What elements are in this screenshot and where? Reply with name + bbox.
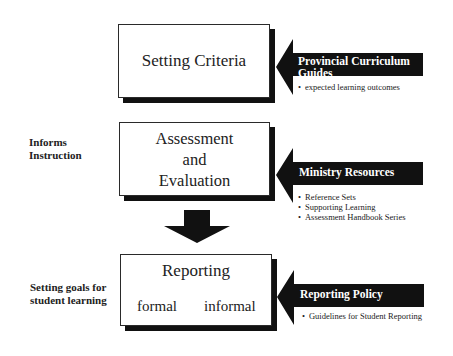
reporting-policy-bullets: Guidelines for Student Reporting: [302, 311, 422, 321]
input-label-reporting-policy: Reporting Policy: [300, 288, 383, 300]
bullet-item: Reference Sets: [298, 192, 406, 202]
title-line: Evaluation: [120, 170, 269, 191]
reporting-title: Reporting: [121, 261, 271, 281]
assessment-evaluation-title: Assessment and Evaluation: [120, 128, 269, 191]
reporting-formal: formal: [137, 298, 177, 315]
label-line: student learning: [30, 294, 107, 307]
bullet-item: expected learning outcomes: [298, 82, 400, 92]
down-arrow-icon: [164, 210, 231, 244]
label-line: Setting goals for: [30, 281, 107, 294]
setting-criteria-title: Setting Criteria: [119, 51, 269, 71]
label-line: Reporting Policy: [300, 288, 383, 300]
label-line: Ministry Resources: [299, 166, 394, 178]
setting-goals-label: Setting goals for student learning: [30, 281, 107, 307]
reporting-box: Reporting formal informal: [120, 254, 272, 326]
assessment-evaluation-box: Assessment and Evaluation: [119, 122, 270, 196]
ministry-resources-bullets: Reference Sets Supporting Learning Asses…: [298, 192, 406, 222]
label-line: Provincial Curriculum: [298, 55, 410, 67]
bullet-item: Assessment Handbook Series: [298, 212, 406, 222]
reporting-informal: informal: [204, 298, 256, 315]
informs-instruction-label: Informs Instruction: [29, 136, 82, 162]
label-line: Guides: [298, 67, 410, 79]
input-label-curriculum-guides: Provincial Curriculum Guides: [298, 55, 410, 79]
setting-criteria-box: Setting Criteria: [118, 24, 270, 98]
bullet-item: Supporting Learning: [298, 202, 406, 212]
bullet-item: Guidelines for Student Reporting: [302, 311, 422, 321]
label-line: Informs: [29, 136, 82, 149]
curriculum-guides-bullets: expected learning outcomes: [298, 82, 400, 92]
label-line: Instruction: [29, 149, 82, 162]
input-label-ministry-resources: Ministry Resources: [299, 166, 394, 178]
title-line: and: [120, 149, 269, 170]
title-line: Assessment: [120, 128, 269, 149]
